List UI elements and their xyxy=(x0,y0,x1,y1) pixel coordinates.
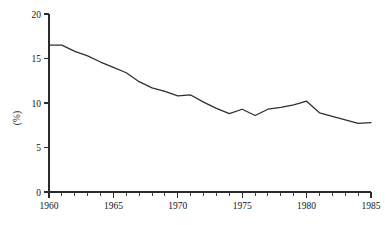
line-chart-svg: (%) 0 5 10 15 20 xyxy=(0,0,386,225)
data-line-series xyxy=(49,45,371,123)
x-tick-label: 1975 xyxy=(233,201,252,211)
x-tick-label: 1965 xyxy=(104,201,123,211)
y-axis-label: (%) xyxy=(12,111,23,125)
chart-figure: (%) 0 5 10 15 20 xyxy=(0,0,386,225)
x-tick-label: 1960 xyxy=(40,201,59,211)
x-tick-label: 1985 xyxy=(362,201,381,211)
x-axis-minor-ticks xyxy=(62,192,358,196)
x-tick-label: 1980 xyxy=(297,201,316,211)
y-tick-label: 0 xyxy=(36,188,41,198)
x-axis-major-ticks xyxy=(49,192,371,198)
y-axis-tick-labels: 0 5 10 15 20 xyxy=(32,10,42,198)
x-tick-label: 1970 xyxy=(168,201,187,211)
y-tick-label: 20 xyxy=(32,10,42,20)
y-axis-ticks xyxy=(44,14,49,192)
x-axis-tick-labels: 1960 1965 1970 1975 1980 1985 xyxy=(40,201,381,211)
y-tick-label: 15 xyxy=(32,54,42,64)
y-tick-label: 10 xyxy=(32,99,42,109)
y-tick-label: 5 xyxy=(36,143,41,153)
